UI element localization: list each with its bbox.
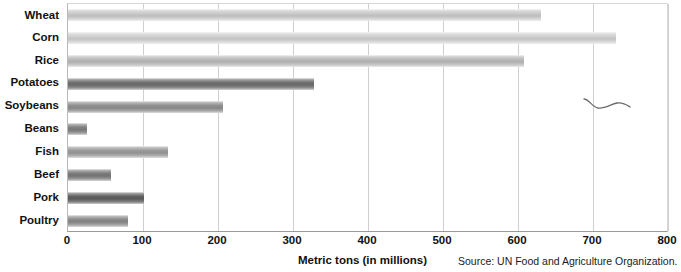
category-label-potatoes: Potatoes [0, 76, 59, 88]
bar-chart: Wheat Corn Rice Potatoes Soybeans Beans … [0, 0, 681, 272]
category-label-beef: Beef [0, 168, 59, 180]
x-tick-600: 600 [507, 234, 526, 246]
x-axis-tick-labels: 0100200300400500600700800 [0, 234, 681, 250]
x-tick-200: 200 [207, 234, 226, 246]
bar-beans [68, 123, 87, 135]
x-axis-title: Metric tons (in millions) [298, 254, 427, 266]
category-label-poultry: Poultry [0, 214, 59, 226]
category-label-wheat: Wheat [0, 9, 59, 21]
bar-fish [68, 146, 168, 158]
bar-potatoes [68, 78, 314, 90]
x-tick-400: 400 [357, 234, 376, 246]
bar-shading [68, 9, 541, 21]
bar-shading [68, 55, 524, 67]
x-tick-700: 700 [582, 234, 601, 246]
bar-rice [68, 55, 524, 67]
category-label-rice: Rice [0, 54, 59, 66]
plot-area [67, 3, 668, 232]
gridline-800 [668, 4, 669, 231]
bar-pork [68, 192, 144, 204]
bar-wheat [68, 9, 541, 21]
bar-shading [68, 78, 314, 90]
bar-shading [68, 169, 111, 181]
category-label-pork: Pork [0, 191, 59, 203]
x-tick-800: 800 [657, 234, 676, 246]
bar-shading [68, 146, 168, 158]
category-label-fish: Fish [0, 145, 59, 157]
source-note: Source: UN Food and Agriculture Organiza… [458, 255, 677, 267]
bar-poultry [68, 215, 128, 227]
bar-corn [68, 32, 616, 44]
bar-shading [68, 123, 87, 135]
bar-shading [68, 215, 128, 227]
bar-shading [68, 101, 223, 113]
x-tick-100: 100 [132, 234, 151, 246]
category-label-corn: Corn [0, 31, 59, 43]
bar-shading [68, 192, 144, 204]
bar-soybeans [68, 101, 223, 113]
bar-shading [68, 32, 616, 44]
category-label-soybeans: Soybeans [0, 99, 59, 111]
x-tick-0: 0 [64, 234, 70, 246]
x-tick-300: 300 [282, 234, 301, 246]
category-axis-labels: Wheat Corn Rice Potatoes Soybeans Beans … [0, 0, 63, 232]
x-tick-500: 500 [432, 234, 451, 246]
category-label-beans: Beans [0, 122, 59, 134]
bar-beef [68, 169, 111, 181]
